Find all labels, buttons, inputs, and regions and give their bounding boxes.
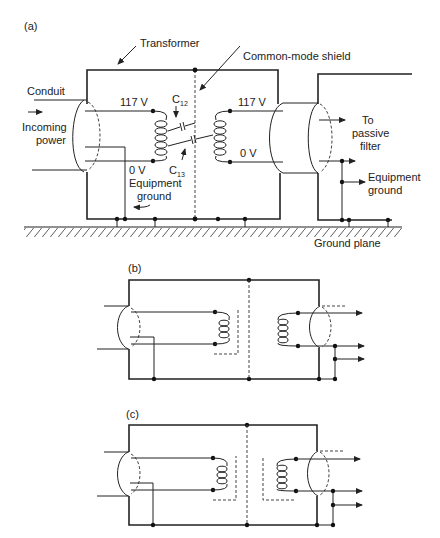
label-conduit: Conduit	[27, 85, 65, 97]
filter-enclosure	[318, 74, 412, 104]
svg-text:ground: ground	[137, 190, 171, 202]
primary-coil	[153, 111, 167, 161]
conduit-left	[73, 100, 84, 172]
svg-text:12: 12	[180, 100, 188, 107]
panel-a: (a)	[22, 20, 421, 249]
svg-text:passive: passive	[352, 127, 389, 139]
panel-c-label: (c)	[126, 408, 139, 420]
label-c13: C	[169, 164, 177, 176]
label-common-mode-shield: Common-mode shield	[243, 50, 351, 62]
label-0v-out: 0 V	[240, 147, 257, 159]
label-equipment-ground: Equipment	[129, 177, 182, 189]
capacitor-c12	[168, 122, 195, 131]
label-to-passive-filter: To	[362, 114, 374, 126]
panel-b: (b)	[97, 262, 364, 381]
primary-coil-c	[213, 458, 227, 490]
secondary-coil-c	[277, 459, 296, 491]
label-incoming: Incoming	[22, 121, 67, 133]
label-equipment-ground-out: Equipment	[368, 171, 421, 183]
svg-text:ground: ground	[368, 184, 402, 196]
svg-text:filter: filter	[360, 140, 381, 152]
label-0v-in: 0 V	[129, 164, 146, 176]
secondary-coil	[214, 111, 230, 162]
panel-a-label: (a)	[24, 20, 37, 32]
svg-text:power: power	[36, 134, 66, 146]
panel-c: (c)	[97, 408, 362, 527]
secondary-shield-c	[263, 458, 296, 500]
capacitor-c13	[168, 135, 213, 146]
primary-coil-b	[215, 312, 229, 344]
label-ground-plane: Ground plane	[314, 237, 381, 249]
label-c12: C	[172, 93, 180, 105]
panel-b-label: (b)	[128, 262, 141, 274]
shielded-transformer-diagram: (a)	[0, 0, 440, 538]
label-117v-out: 117 V	[238, 96, 267, 108]
label-transformer: Transformer	[140, 37, 200, 49]
secondary-coil-b	[278, 313, 298, 346]
label-117v-in: 117 V	[120, 96, 149, 108]
